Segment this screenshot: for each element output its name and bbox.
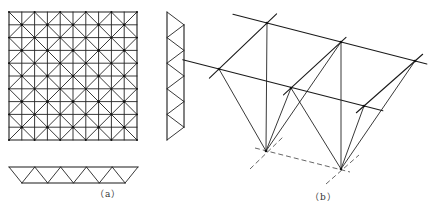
space-truss-figure xyxy=(0,0,431,211)
side-elevation-truss xyxy=(167,12,184,140)
grid-plan-view xyxy=(8,11,138,141)
isometric-truss-detail xyxy=(183,14,427,184)
bottom-elevation-truss xyxy=(9,167,138,183)
panel-b-label: （b） xyxy=(310,190,337,203)
panel-a-label: （a） xyxy=(95,187,121,200)
